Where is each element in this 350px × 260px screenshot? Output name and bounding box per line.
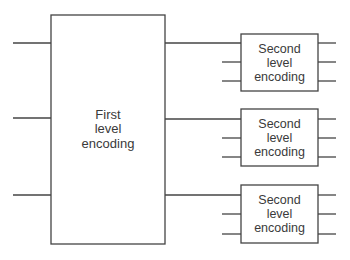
label-line: encoding — [82, 137, 135, 152]
label-line: encoding — [254, 145, 305, 159]
label-line: level — [254, 56, 305, 70]
first-level-label: First level encoding — [51, 15, 165, 244]
label-line: level — [254, 131, 305, 145]
label-line: encoding — [254, 70, 305, 84]
second-level-label-2: Second level encoding — [241, 109, 318, 166]
second-level-label-3: Second level encoding — [241, 185, 318, 243]
label-line: Second — [254, 193, 305, 207]
label-line: level — [254, 207, 305, 221]
label-line: level — [82, 122, 135, 137]
label-line: encoding — [254, 221, 305, 235]
label-line: Second — [254, 117, 305, 131]
second-level-label-1: Second level encoding — [241, 34, 318, 91]
label-line: Second — [254, 42, 305, 56]
label-line: First — [82, 108, 135, 123]
